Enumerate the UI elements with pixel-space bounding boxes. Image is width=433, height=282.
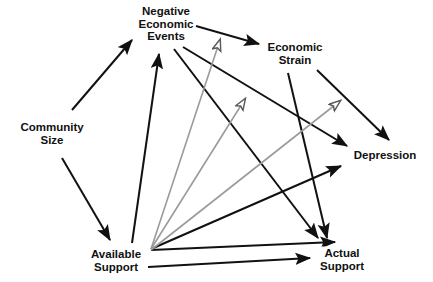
edge-available_support-to-depression <box>151 166 341 249</box>
edge-economic_strain-to-actual_support <box>288 73 327 238</box>
edge-economic_strain-to-depression <box>317 70 389 140</box>
edge-negative_events-to-actual_support <box>174 49 318 238</box>
node-depression: Depression <box>353 149 418 162</box>
node-available-support: Available Support <box>90 248 142 273</box>
node-economic-strain: Economic Strain <box>267 41 324 66</box>
node-community-size: Community Size <box>19 121 84 146</box>
edge-available_support-to-events_strain_path <box>151 40 220 249</box>
edge-available_support-to-strain_depr_path <box>151 99 245 249</box>
edge-negative_events-to-economic_strain <box>196 26 259 44</box>
path-diagram-figure: Community Size Negative Economic Events … <box>0 0 433 282</box>
edge-community_size-to-available_support <box>62 158 110 240</box>
edge-available_support-to-actual_support <box>148 258 310 267</box>
edge-available_support-to-negative_events <box>132 54 159 243</box>
node-negative-economic-events: Negative Economic Events <box>138 5 195 43</box>
edge-community_size-to-negative_events <box>72 40 132 110</box>
edge-available_support-to-actual_support <box>151 242 335 250</box>
node-actual-support: Actual Support <box>319 247 365 272</box>
